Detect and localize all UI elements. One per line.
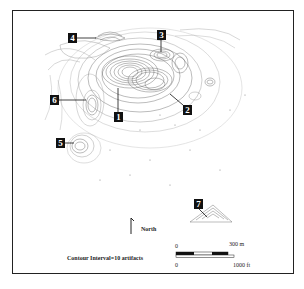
north-arrow-icon: [131, 218, 134, 234]
site-label-2: 2: [183, 105, 192, 115]
scale-bar: [176, 252, 234, 258]
site-label-1: 1: [114, 112, 123, 122]
scale-imperial-zero: 0: [175, 262, 178, 268]
scale-metric-zero: 0: [175, 243, 178, 249]
contour-lines: [45, 28, 242, 222]
scale-imperial-max: 1000 ft: [233, 262, 250, 268]
scale-metric-max: 300 m: [229, 241, 244, 247]
contour-map: [0, 0, 304, 289]
north-label: North: [141, 226, 156, 232]
site-label-4: 4: [68, 33, 77, 43]
site-label-3: 3: [157, 30, 166, 40]
scatter-dots: [99, 94, 245, 185]
site-label-6: 6: [50, 95, 59, 105]
site-label-5: 5: [56, 138, 65, 148]
contour-interval-note: Contour Interval=10 artifacts: [67, 255, 143, 261]
site-label-7: 7: [194, 199, 203, 209]
